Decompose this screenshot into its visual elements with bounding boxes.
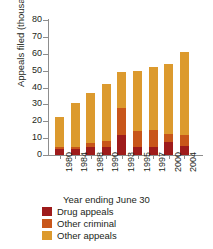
x-tick-mark [60,155,61,159]
x-tick-label: 1984 [79,152,89,192]
bar-segment [117,72,126,107]
y-tick-label: 70 [2,32,42,41]
y-tick-mark [43,104,48,105]
y-tick-mark [43,20,48,21]
bar-1990 [102,84,111,155]
legend-swatch [42,219,52,228]
y-tick-mark [43,37,48,38]
x-tick-label: 1990 [110,152,120,192]
y-tick-label: 80 [2,15,42,24]
x-tick-mark [169,155,170,159]
y-tick-mark [43,121,48,122]
y-tick-mark [43,71,48,72]
x-tick-label: 2000 [173,152,183,192]
bar-1988 [86,93,95,155]
legend-item: Drug appeals [42,206,117,217]
plot-area [48,20,203,155]
bar-1997 [149,67,158,155]
legend-item: Other criminal [42,218,117,229]
bar-segment [133,71,142,132]
bar-segment [133,131,142,147]
x-tick-label: 1980 [64,152,74,192]
x-tick-mark [122,155,123,159]
bar-chart: Appeals filed (thousands) 01020304050607… [0,0,213,249]
bar-segment [102,84,111,141]
y-tick-mark [43,138,48,139]
legend-label: Other criminal [57,219,116,229]
legend-swatch [42,207,52,216]
bar-segment [55,117,64,147]
bar-segment [180,135,189,146]
x-tick-label: 1993 [126,152,136,192]
bar-1995 [133,71,142,155]
bar-segment [149,130,158,148]
x-tick-label: 2004 [188,152,198,192]
y-tick-label: 60 [2,49,42,58]
bar-segment [164,64,173,134]
bar-1984 [71,103,80,155]
y-tick-label: 50 [2,66,42,75]
bar-1980 [55,117,64,155]
x-tick-mark [153,155,154,159]
y-tick-label: 40 [2,83,42,92]
y-tick-label: 10 [2,133,42,142]
x-tick-mark [75,155,76,159]
bar-1993 [117,72,126,155]
bar-2000 [164,64,173,155]
bar-segment [164,134,173,142]
x-axis-title: Year ending June 30 [0,194,213,205]
x-tick-mark [91,155,92,159]
x-tick-mark [138,155,139,159]
y-tick-label: 20 [2,116,42,125]
legend-label: Drug appeals [57,207,114,217]
bar-segment [180,52,189,135]
y-tick-label: 0 [2,150,42,159]
y-axis-tick-labels: 01020304050607080 [0,0,42,175]
x-tick-mark [106,155,107,159]
y-tick-mark [43,88,48,89]
y-tick-mark [43,155,48,156]
legend-swatch [42,231,52,240]
x-tick-mark [184,155,185,159]
bar-segment [117,108,126,135]
x-tick-label: 1988 [95,152,105,192]
legend-label: Other appeals [57,231,117,241]
x-tick-label: 1997 [157,152,167,192]
bar-segment [71,103,80,147]
y-tick-mark [43,54,48,55]
legend-item: Other appeals [42,230,117,241]
chart-legend: Drug appealsOther criminalOther appeals [42,206,117,241]
y-tick-label: 30 [2,99,42,108]
bar-2004 [180,52,189,155]
bar-segment [149,67,158,129]
bar-segment [86,93,95,144]
x-tick-label: 1995 [142,152,152,192]
